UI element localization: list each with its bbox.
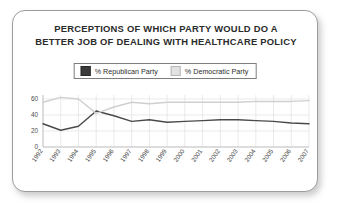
legend-item-republican[interactable]: % Republican Party [81,66,158,76]
series-line-democratic [43,97,309,113]
y-axis-tick-label: 60 [31,95,39,102]
chart-plot-area: 0204060 19921993199419951996199719981999… [13,89,318,192]
series-line-republican [43,111,309,130]
chart-svg: 0204060 19921993199419951996199719981999… [13,89,318,192]
chart-screenshot: PERCEPTIONS OF WHICH PARTY WOULD DO A BE… [0,0,342,211]
x-axis-tick-label: 1993 [48,147,62,163]
chart-card: PERCEPTIONS OF WHICH PARTY WOULD DO A BE… [12,10,318,192]
x-axis-tick-label: 1995 [83,147,97,163]
x-axis-tick-label: 2003 [225,147,239,163]
x-axis-tick-label: 2002 [207,147,221,163]
x-axis-tick-label: 1992 [30,147,44,163]
chart-series-layer [43,97,309,130]
chart-title-line-1: PERCEPTIONS OF WHICH PARTY WOULD DO A [13,22,318,35]
x-axis-tick-label: 1994 [66,147,80,163]
legend-label-republican: % Republican Party [95,67,158,76]
chart-title: PERCEPTIONS OF WHICH PARTY WOULD DO A BE… [13,22,318,48]
x-axis-tick-label: 2000 [172,147,186,163]
x-axis-tick-label: 2004 [243,147,257,163]
x-axis-tick-label: 2007 [296,147,310,163]
y-axis-tick-label: 40 [31,111,39,118]
chart-y-axis: 0204060 [31,95,39,150]
x-axis-tick-label: 1998 [136,147,150,163]
legend-swatch-democratic-icon [171,66,181,76]
chart-x-axis: 1992199319941995199619971998199920002001… [30,147,310,163]
legend-item-democratic[interactable]: % Democratic Party [171,66,249,76]
x-axis-tick-label: 1996 [101,147,115,163]
y-axis-tick-label: 20 [31,127,39,134]
x-axis-tick-label: 2005 [261,147,275,163]
x-axis-tick-label: 1999 [154,147,168,163]
legend-swatch-republican-icon [81,66,91,76]
chart-title-line-2: BETTER JOB OF DEALING WITH HEALTHCARE PO… [13,35,318,48]
chart-legend: % Republican Party % Democratic Party [74,63,257,79]
legend-label-democratic: % Democratic Party [185,67,249,76]
x-axis-tick-label: 2006 [278,147,292,163]
x-axis-tick-label: 2001 [190,147,204,163]
x-axis-tick-label: 1997 [119,147,133,163]
